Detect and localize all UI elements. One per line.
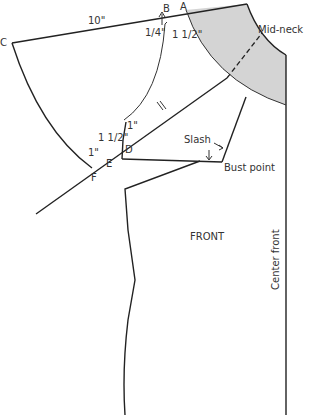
label-f: F (91, 172, 97, 183)
label-d: D (125, 144, 133, 155)
label-a: A (180, 1, 187, 12)
side-seam (124, 161, 200, 415)
arrow-slash-icon (214, 143, 223, 150)
label-bust-point: Bust point (224, 162, 275, 173)
label-front: FRONT (190, 231, 225, 242)
label-10in: 10" (88, 15, 105, 26)
label-1half-a: 1 1/2" (172, 29, 202, 40)
bust-line (122, 159, 222, 162)
label-1half-b: 1 1/2" (98, 132, 128, 143)
label-mid-neck: Mid-neck (258, 24, 303, 35)
label-e: E (106, 158, 112, 169)
sleeve-arc (12, 43, 92, 168)
label-b: B (163, 3, 170, 14)
notch-mark (157, 101, 166, 110)
arrow-down-icon (206, 150, 212, 160)
label-slash: Slash (184, 134, 211, 145)
label-c: C (0, 37, 7, 48)
label-1in-d: 1" (127, 120, 138, 131)
label-1in-f: 1" (88, 147, 99, 158)
bust-to-shoulder (222, 97, 246, 162)
pattern-diagram: 10" C B A 1/4" 1 1/2" Mid-neck 1" 1 1/2"… (0, 0, 318, 415)
shaded-yoke (186, 4, 286, 105)
label-quarter: 1/4" (145, 27, 166, 38)
label-center-front: Center front (270, 229, 281, 290)
